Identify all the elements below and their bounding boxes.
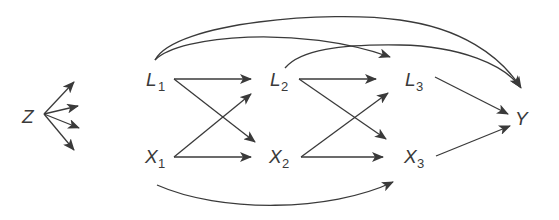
node-x3-subscript: 3	[417, 156, 424, 171]
node-l3: L 3	[405, 69, 423, 94]
edge-x3-y	[436, 126, 510, 156]
node-x1-label: X	[144, 146, 159, 167]
node-l1: L 1	[146, 69, 165, 94]
node-y: Y	[515, 108, 529, 129]
node-l1-subscript: 1	[158, 79, 165, 94]
edge-l1-x2	[174, 79, 255, 142]
node-x1: X 1	[144, 146, 165, 171]
node-z: Z	[21, 106, 35, 127]
node-l1-label: L	[146, 69, 157, 90]
edge-x2-l3	[301, 93, 388, 157]
node-l3-subscript: 3	[416, 79, 423, 94]
node-x2-label: X	[268, 146, 283, 167]
node-x1-subscript: 1	[158, 156, 165, 171]
node-l3-label: L	[405, 69, 416, 90]
z-arrows	[44, 82, 79, 150]
edge-l1-y-curved	[155, 17, 521, 88]
node-x3-label: X	[403, 146, 418, 167]
z-arrow-1	[44, 82, 74, 114]
edge-l3-y	[435, 77, 508, 114]
edge-x1-l2	[174, 94, 251, 157]
node-l2: L 2	[270, 69, 288, 94]
node-l2-subscript: 2	[281, 79, 288, 94]
edge-l1-l3-curved	[155, 37, 390, 60]
node-z-label: Z	[21, 106, 35, 127]
node-l2-label: L	[270, 69, 281, 90]
z-arrow-2	[44, 106, 78, 114]
node-x2: X 2	[268, 146, 289, 171]
node-x3: X 3	[403, 146, 424, 171]
edge-l2-x3	[299, 79, 386, 139]
causal-diagram: Z L 1 X 1 L 2 X 2 L 3 X 3 Y	[0, 0, 559, 220]
node-x2-subscript: 2	[282, 156, 289, 171]
node-y-label: Y	[515, 108, 529, 129]
edge-x1-x3-curved	[157, 182, 393, 205]
